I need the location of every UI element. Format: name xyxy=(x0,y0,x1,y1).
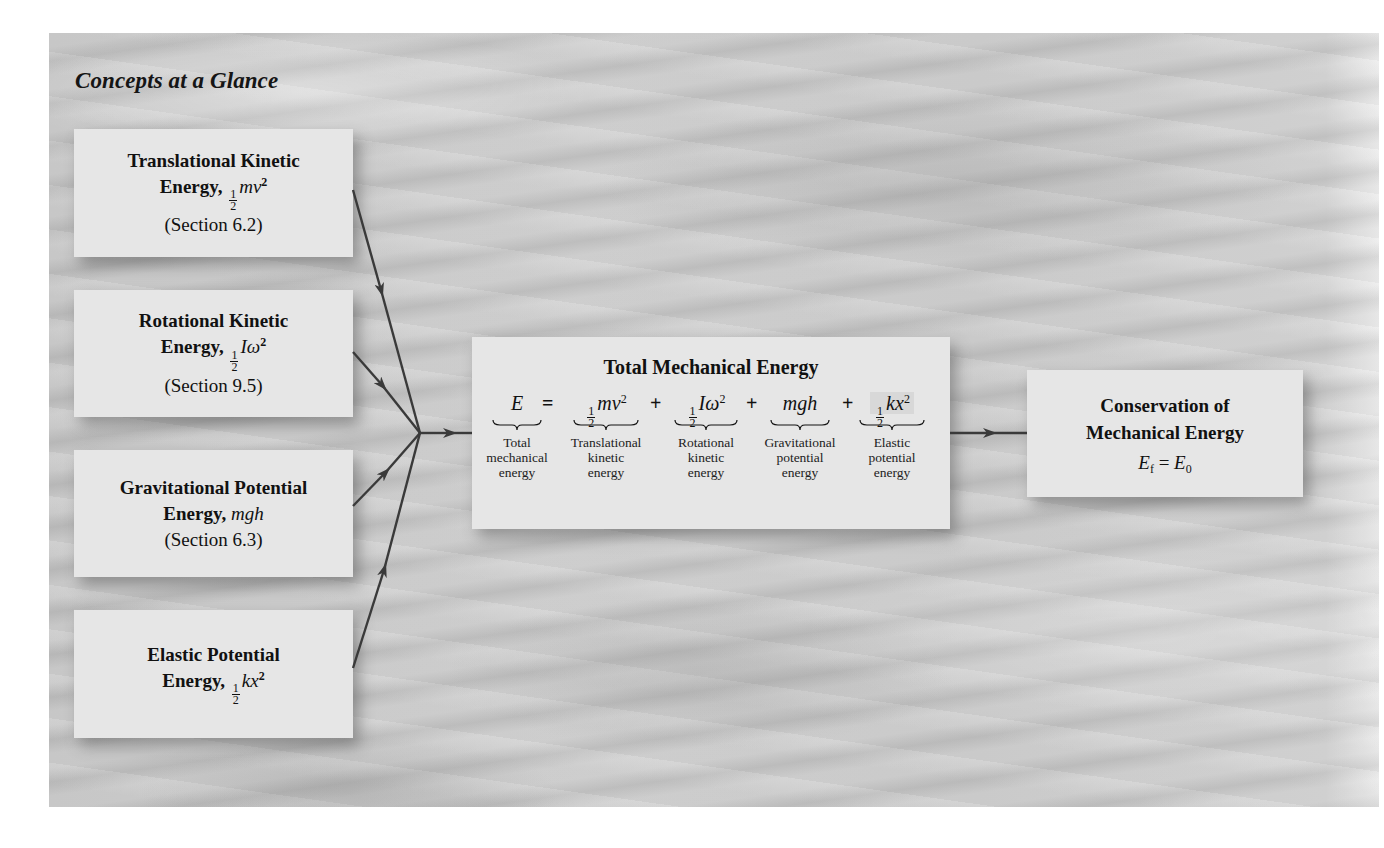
box-heading: Gravitational Potential xyxy=(120,475,307,501)
equation-term-rotational: 12Iω2 Rotationalkineticenergy xyxy=(668,389,744,480)
box-section-ref: (Section 6.2) xyxy=(164,212,262,238)
equation-term-translational: 12mv2 Translationalkineticenergy xyxy=(560,389,652,480)
conservation-of-mechanical-energy-box: Conservation of Mechanical Energy Ef = E… xyxy=(1027,370,1303,497)
equals-sign: = xyxy=(542,389,553,417)
translational-kinetic-energy-box: Translational Kinetic Energy, 12mv2 (Sec… xyxy=(74,129,353,257)
panel-title: Concepts at a Glance xyxy=(75,68,278,94)
box-section-ref: (Section 6.3) xyxy=(164,527,262,553)
fraction: 12 xyxy=(229,189,237,212)
plus-sign: + xyxy=(650,389,661,417)
box-heading: Conservation of xyxy=(1100,392,1229,419)
total-mechanical-energy-box: Total Mechanical Energy E Totalmechanica… xyxy=(472,337,950,529)
plus-sign: + xyxy=(842,389,853,417)
underbrace-icon xyxy=(770,419,830,431)
underbrace-icon xyxy=(674,419,738,431)
underbrace-icon xyxy=(573,419,639,431)
box-heading-line2: Mechanical Energy xyxy=(1086,419,1244,446)
box-section-ref: (Section 9.5) xyxy=(164,373,262,399)
fraction: 12 xyxy=(232,683,240,706)
box-formula: Energy, mgh xyxy=(163,501,263,527)
box-formula: Energy, 12Iω2 xyxy=(161,334,266,372)
conservation-equation: Ef = E0 xyxy=(1138,450,1191,476)
elastic-potential-energy-box: Elastic Potential Energy, 12kx2 xyxy=(74,610,353,738)
rotational-kinetic-energy-box: Rotational Kinetic Energy, 12Iω2 (Sectio… xyxy=(74,290,353,417)
box-heading: Rotational Kinetic xyxy=(139,308,288,334)
box-heading: Translational Kinetic xyxy=(127,148,299,174)
box-heading: Elastic Potential xyxy=(147,642,279,668)
total-title: Total Mechanical Energy xyxy=(604,356,819,379)
equation-term-elastic: 12kx2 Elasticpotentialenergy xyxy=(854,389,930,480)
box-formula: Energy, 12mv2 xyxy=(160,174,268,212)
box-formula: Energy, 12kx2 xyxy=(162,668,264,706)
underbrace-icon xyxy=(492,419,542,431)
fraction: 12 xyxy=(230,350,238,373)
equation-term-gravitational: mgh Gravitationalpotentialenergy xyxy=(756,389,844,480)
gravitational-potential-energy-box: Gravitational Potential Energy, mgh (Sec… xyxy=(74,450,353,577)
underbrace-icon xyxy=(859,419,925,431)
energy-equation: E Totalmechanicalenergy = 12mv2 Translat… xyxy=(472,389,950,509)
